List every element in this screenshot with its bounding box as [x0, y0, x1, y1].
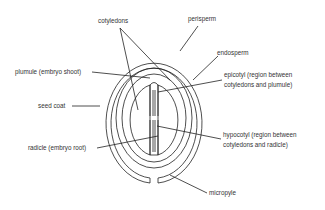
seed-coat-outer: [106, 63, 202, 183]
label-hypocotyl-line2: cotyledons and radicle): [223, 141, 288, 149]
pointer-epicotyl: [158, 80, 222, 92]
pointer-perisperm: [180, 26, 198, 51]
label-endosperm: endosperm: [217, 49, 249, 57]
seed-diagram: cotyledons perisperm endosperm epicotyl …: [0, 0, 325, 210]
seed-coat-inner: [111, 68, 197, 178]
pointer-endosperm: [193, 56, 218, 80]
pointer-micropyle: [170, 175, 207, 193]
label-micropyle: micropyle: [209, 189, 236, 197]
pointer-cotyledons-left: [120, 28, 138, 110]
plumule-shape: [150, 83, 158, 117]
label-radicle: radicle (embryo root): [28, 144, 86, 152]
labels: cotyledons perisperm endosperm epicotyl …: [15, 15, 297, 197]
label-perisperm: perisperm: [188, 15, 216, 23]
endosperm-layer: [122, 74, 186, 162]
cotyledon-right: [158, 85, 178, 155]
label-plumule: plumule (embryo shoot): [15, 68, 81, 76]
pointer-plumule: [92, 72, 150, 78]
pointer-cotyledons-right: [120, 28, 170, 80]
label-epicotyl-line2: cotyledons and plumule): [224, 81, 292, 89]
label-seed-coat: seed coat: [38, 102, 66, 109]
label-cotyledons: cotyledons: [98, 17, 128, 25]
cotyledon-left: [130, 85, 150, 155]
embryo-axis: [150, 83, 158, 156]
perisperm-layer: [116, 68, 192, 168]
seed-coat-layers: [106, 63, 202, 183]
label-hypocotyl-line1: hypocotyl (region between: [223, 131, 297, 139]
pointer-radicle: [97, 136, 158, 148]
label-epicotyl-line1: epicotyl (region between: [224, 71, 293, 79]
pointer-lines: [72, 26, 222, 193]
